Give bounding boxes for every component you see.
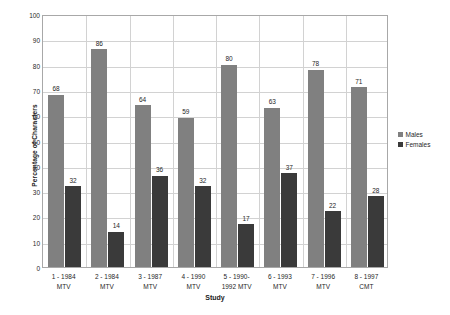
bar-females[interactable] (368, 196, 384, 267)
bar-females[interactable] (108, 232, 124, 267)
x-axis-tick-label-line: 7 - 1996 (302, 272, 345, 282)
x-axis-tick-label: 7 - 1996MTV (302, 272, 345, 291)
legend: MalesFemales (398, 131, 448, 151)
bar-group: 8017 (216, 16, 259, 267)
x-axis-title: Study (42, 294, 388, 301)
y-axis-tick-label: 90 (18, 37, 40, 44)
bar-value-label: 63 (269, 99, 276, 106)
bar-value-label: 59 (182, 109, 189, 116)
bar-value-label: 17 (243, 216, 250, 223)
bar-males[interactable] (48, 95, 64, 267)
x-axis-tick-label: 2 - 1984MTV (85, 272, 128, 291)
y-axis-tick-label: 40 (18, 163, 40, 170)
legend-item[interactable]: Males (398, 131, 448, 138)
y-axis-tick-label: 50 (18, 138, 40, 145)
x-axis-tick-label-line: 6 - 1993 (258, 272, 301, 282)
x-axis-tick-label-line: 4 - 1990 (172, 272, 215, 282)
bar-group: 5932 (173, 16, 216, 267)
y-axis-tick-label: 60 (18, 113, 40, 120)
x-axis-tick-label-line: 8 - 1997 (345, 272, 388, 282)
bar-value-label: 36 (156, 167, 163, 174)
y-axis-tick-label: 70 (18, 87, 40, 94)
x-axis-tick-label: 4 - 1990MTV (172, 272, 215, 291)
bar-females[interactable] (195, 186, 211, 267)
bar-value-label: 14 (113, 223, 120, 230)
bars-layer: 68328614643659328017633778227128 (43, 16, 387, 267)
x-axis-tick-label-line: MTV (172, 282, 215, 292)
bar-females[interactable] (238, 224, 254, 267)
x-axis-tick-label-line: 3 - 1987 (129, 272, 172, 282)
bar-value-label: 22 (329, 203, 336, 210)
bar-males[interactable] (264, 108, 280, 267)
x-axis-tick-label: 1 - 1984MTV (42, 272, 85, 291)
x-axis-tick-label-line: 1 - 1984 (42, 272, 85, 282)
bar-group: 7128 (346, 16, 389, 267)
y-axis-tick-label: 10 (18, 239, 40, 246)
bar-value-label: 68 (53, 86, 60, 93)
x-axis-tick-label: 5 - 1990-1992 MTV (215, 272, 258, 291)
bar-group: 6436 (130, 16, 173, 267)
x-axis-tick-label: 6 - 1993MTV (258, 272, 301, 291)
x-axis-tick-label-line: CMT (345, 282, 388, 292)
y-axis-tick-label: 20 (18, 214, 40, 221)
bar-value-label: 64 (139, 97, 146, 104)
bar-males[interactable] (91, 49, 107, 267)
x-axis-tick-label: 3 - 1987MTV (129, 272, 172, 291)
x-axis-tick-label-line: MTV (258, 282, 301, 292)
bar-males[interactable] (351, 87, 367, 267)
bar-group: 8614 (86, 16, 129, 267)
legend-label: Females (406, 141, 431, 148)
legend-label: Males (406, 131, 423, 138)
bar-males[interactable] (178, 118, 194, 267)
x-axis-tick-label-line: 1992 MTV (215, 282, 258, 292)
x-axis-tick-label-line: MTV (129, 282, 172, 292)
y-axis-tick-label: 100 (18, 12, 40, 19)
bar-females[interactable] (281, 173, 297, 267)
x-axis-tick-label-line: MTV (302, 282, 345, 292)
legend-item[interactable]: Females (398, 141, 448, 148)
bar-value-label: 37 (286, 165, 293, 172)
x-axis-tick-label-line: 5 - 1990- (215, 272, 258, 282)
bar-value-label: 86 (96, 41, 103, 48)
y-axis-tick-labels: 1009080706050403020100 (18, 15, 40, 268)
bar-value-label: 28 (372, 188, 379, 195)
x-axis-tick-label-line: MTV (85, 282, 128, 292)
bar-value-label: 32 (199, 178, 206, 185)
bar-value-label: 32 (70, 178, 77, 185)
y-axis-tick-label: 80 (18, 62, 40, 69)
bar-value-label: 80 (226, 56, 233, 63)
plot-area: 68328614643659328017633778227128 (42, 15, 388, 268)
bar-males[interactable] (135, 105, 151, 267)
bar-males[interactable] (221, 65, 237, 267)
x-axis-tick-label-line: 2 - 1984 (85, 272, 128, 282)
x-axis-tick-label-line: MTV (42, 282, 85, 292)
legend-swatch-icon (398, 142, 403, 147)
y-axis-tick-label: 0 (18, 265, 40, 272)
bar-females[interactable] (325, 211, 341, 267)
bar-value-label: 71 (355, 79, 362, 86)
x-axis-tick-label: 8 - 1997CMT (345, 272, 388, 291)
bar-females[interactable] (152, 176, 168, 267)
bar-chart: Percentage of Characters 100908070605040… (0, 0, 450, 315)
bar-group: 7822 (303, 16, 346, 267)
bar-females[interactable] (65, 186, 81, 267)
bar-males[interactable] (308, 70, 324, 267)
bar-value-label: 78 (312, 61, 319, 68)
legend-swatch-icon (398, 132, 403, 137)
bar-group: 6832 (43, 16, 86, 267)
y-axis-tick-label: 30 (18, 189, 40, 196)
bar-group: 6337 (259, 16, 302, 267)
